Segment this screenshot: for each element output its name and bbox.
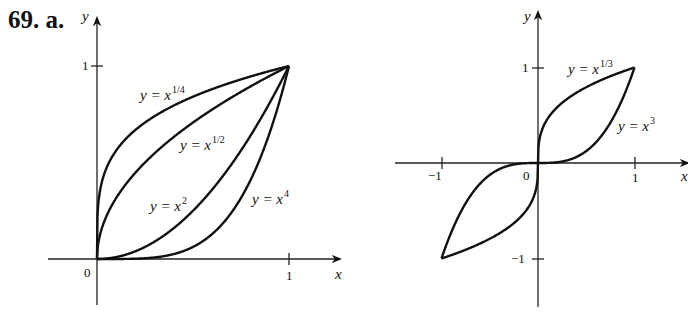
- right-axes: [395, 12, 688, 307]
- left-curves: [97, 66, 289, 259]
- curve-y-x-1-4-: [97, 66, 289, 259]
- label-y-x-3: y = x3: [618, 115, 655, 135]
- right-y-tick-label-neg1: −1: [511, 251, 525, 267]
- left-y-tick-label-1: 1: [82, 58, 89, 74]
- plots-canvas: [0, 0, 688, 320]
- label-y-x-2: y = x2: [150, 195, 187, 215]
- right-x-axis-label: x: [681, 168, 688, 185]
- right-y-tick-label-1: 1: [522, 60, 529, 76]
- right-x-tick-label-neg1: −1: [428, 168, 442, 184]
- left-x-tick-label-1: 1: [286, 268, 293, 284]
- label-y-x-1-4: y = x1/4: [140, 84, 185, 104]
- right-x-tick-label-1: 1: [632, 170, 639, 186]
- curve-y-x-4: [97, 66, 289, 259]
- left-origin-label: 0: [84, 265, 91, 281]
- right-y-axis-label: y: [524, 8, 531, 25]
- curve-y-x-2: [97, 66, 289, 259]
- left-x-axis-label: x: [335, 266, 342, 283]
- label-y-x-1-2: y = x1/2: [180, 134, 225, 154]
- right-origin-label: 0: [523, 168, 530, 184]
- left-axes: [48, 18, 340, 305]
- label-y-x-1-3: y = x1/3: [568, 58, 613, 78]
- curve-y-x-1-2-: [97, 66, 289, 259]
- label-y-x-4: y = x4: [252, 188, 289, 208]
- left-y-axis-label: y: [82, 8, 89, 25]
